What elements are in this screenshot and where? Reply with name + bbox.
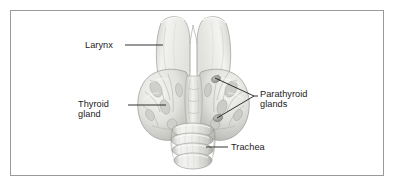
label-parathyroid-glands-line2: glands (260, 99, 287, 109)
label-thyroid-gland-line1: Thyroid (78, 99, 109, 109)
figure-root: Larynx Thyroidgland Parathyroidglands Tr… (0, 0, 396, 188)
label-parathyroid-glands: Parathyroidglands (260, 89, 308, 109)
annotation-leader-lines (0, 0, 396, 188)
label-thyroid-gland: Thyroidgland (78, 99, 109, 119)
label-trachea: Trachea (231, 142, 265, 152)
label-parathyroid-glands-line1: Parathyroid (260, 89, 308, 99)
label-larynx-text: Larynx (85, 40, 113, 50)
label-thyroid-gland-line2: gland (78, 109, 101, 119)
label-trachea-text: Trachea (231, 142, 265, 152)
label-larynx: Larynx (85, 40, 113, 50)
leader-line-parathyroid-glands (215, 78, 258, 118)
